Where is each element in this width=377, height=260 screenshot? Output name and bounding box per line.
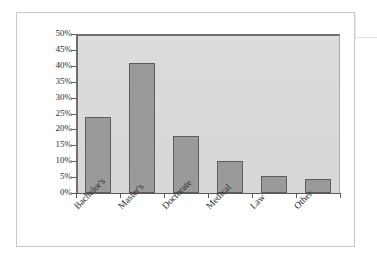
y-axis-tick-label: 25% — [56, 109, 73, 118]
y-axis-tick-mark — [71, 145, 76, 146]
y-axis-tick-label: 20% — [56, 124, 73, 133]
y-axis-tick-label: 35% — [56, 77, 73, 86]
y-axis-tick-label: 30% — [56, 93, 73, 102]
y-axis-tick-label: 50% — [56, 29, 73, 38]
y-axis-tick-label: 15% — [56, 140, 73, 149]
y-axis-tick-mark — [71, 34, 76, 35]
bar — [129, 63, 155, 193]
y-axis-tick-mark — [71, 177, 76, 178]
y-axis-tick-label: 45% — [56, 45, 73, 54]
stray-vertical-line — [355, 12, 356, 40]
plot-area — [76, 34, 340, 193]
y-axis-tick-mark — [71, 161, 76, 162]
chart-canvas: 50%45%40%35%30%25%20%15%10%5%0% Bachelor… — [0, 0, 377, 260]
x-axis-tick-mark — [340, 194, 341, 198]
y-axis-tick-mark — [71, 50, 76, 51]
bar — [261, 176, 287, 193]
y-axis-tick-mark — [71, 129, 76, 130]
y-axis-tick-label: 40% — [56, 61, 73, 70]
y-axis-labels: 50%45%40%35%30%25%20%15%10%5%0% — [42, 0, 72, 260]
y-axis-tick-label: 10% — [56, 156, 73, 165]
y-axis-tick-mark — [71, 82, 76, 83]
y-axis-tick-mark — [71, 98, 76, 99]
y-axis-tick-mark — [71, 66, 76, 67]
y-axis-tick-mark — [71, 114, 76, 115]
